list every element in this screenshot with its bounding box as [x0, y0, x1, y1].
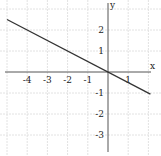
- y-tick-label: -3: [95, 130, 104, 140]
- x-tick-label: -3: [43, 75, 52, 85]
- y-tick-label: -1: [95, 88, 104, 98]
- y-tick-label: -2: [95, 109, 104, 119]
- y-tick-label: 2: [98, 25, 104, 35]
- y-axis-label: y: [109, 0, 116, 10]
- x-tick-label: -2: [63, 75, 72, 85]
- x-axis-label: x: [150, 61, 155, 71]
- x-tick-label: -4: [23, 75, 32, 85]
- y-tick-label: 1: [98, 46, 104, 56]
- line-graph: xy-4-3-2-1121-1-2-3: [0, 0, 161, 156]
- x-tick-label: -1: [83, 75, 92, 85]
- coordinate-plane: xy-4-3-2-1121-1-2-3: [0, 0, 161, 156]
